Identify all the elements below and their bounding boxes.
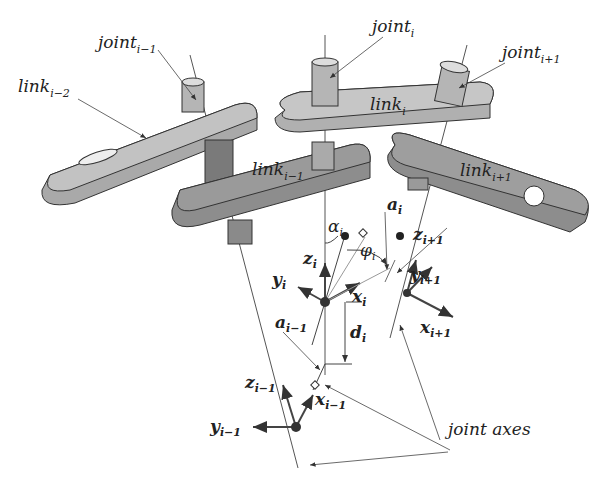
- label-y-i: yi: [271, 269, 286, 292]
- label-x-i+1: xi+1: [419, 317, 451, 340]
- label-x-i-1: xi−1: [314, 389, 346, 412]
- label-joint-i-1: jointi−1: [94, 32, 156, 56]
- label-link-i-2: linki−2: [18, 76, 70, 100]
- label-y-i+1: yi+1: [409, 264, 441, 287]
- label-a-i-1: ai−1: [275, 312, 307, 335]
- link-i+1: [388, 133, 589, 232]
- label-x-i: xi: [351, 286, 366, 309]
- label-phi-i: φi: [360, 240, 375, 263]
- label-joint-i: jointi: [368, 16, 414, 40]
- kinematic-diagram: jointi−1 linki−2 jointi jointi+1 linki l…: [0, 0, 604, 487]
- label-d-i: di: [350, 322, 366, 345]
- label-alpha-i: αi: [328, 216, 343, 239]
- label-joint-axes: joint axes: [444, 419, 531, 439]
- label-y-i-1: yi−1: [209, 416, 241, 439]
- labels: jointi−1 linki−2 jointi jointi+1 linki l…: [18, 16, 560, 439]
- label-z-i+1: zi+1: [412, 224, 444, 247]
- label-joint-i+1: jointi+1: [498, 42, 560, 66]
- label-z-i: zi: [302, 248, 317, 271]
- label-z-i-1: zi−1: [244, 372, 276, 395]
- label-a-i: ai: [387, 194, 402, 217]
